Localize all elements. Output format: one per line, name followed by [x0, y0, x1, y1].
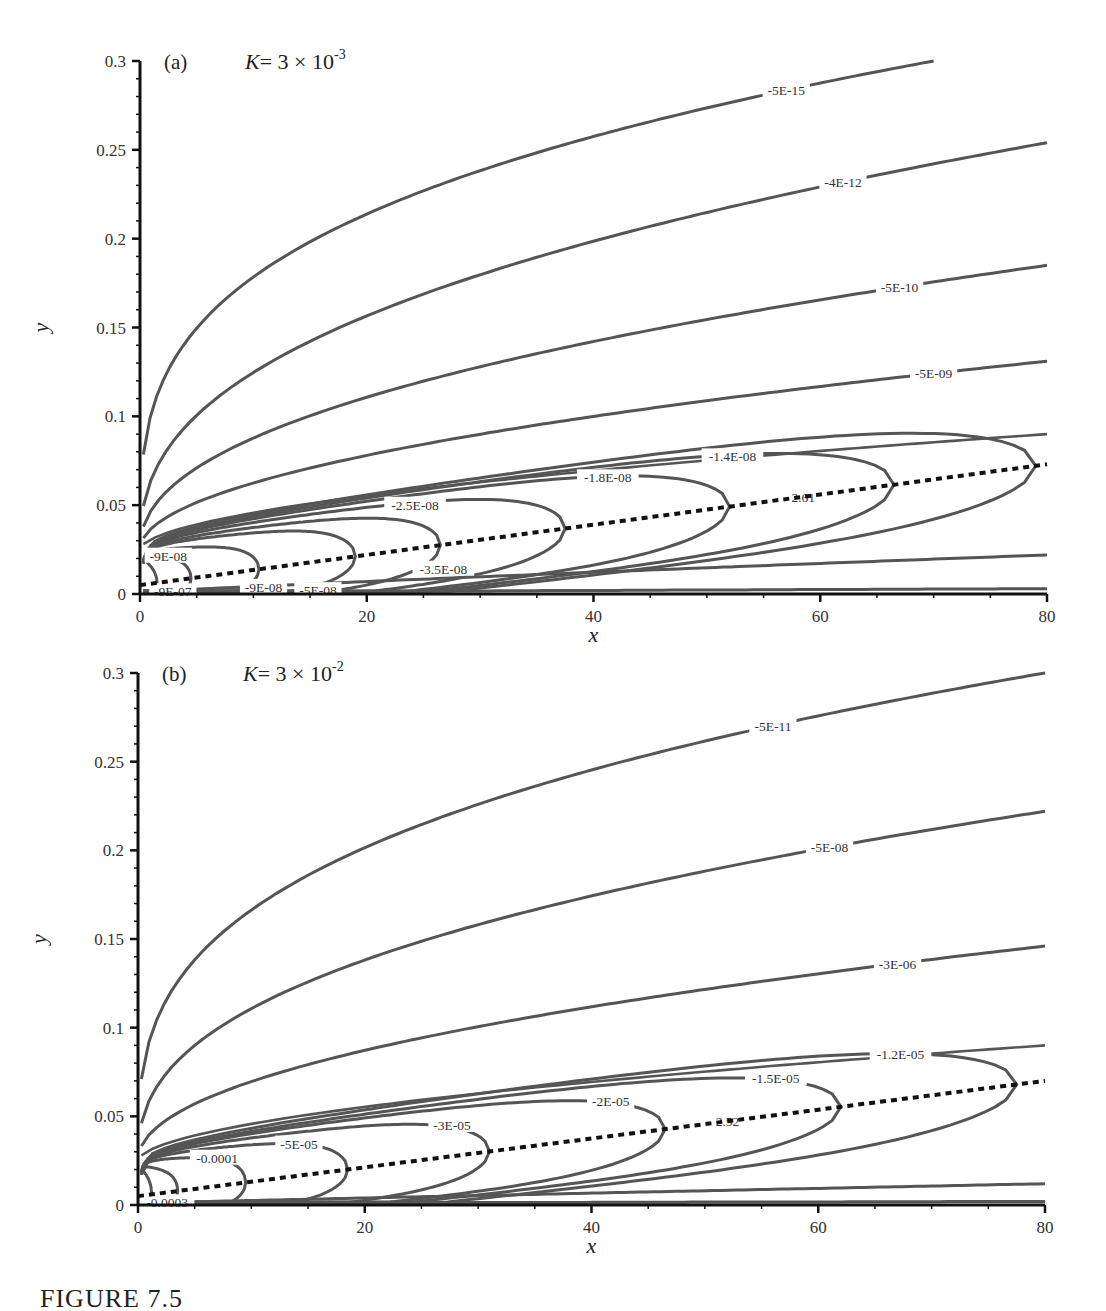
x-tick-label: 80 [1039, 607, 1056, 626]
contour-value-label: -1.5E-05 [752, 1071, 800, 1086]
contour-value-label: -3E-06 [879, 957, 917, 972]
x-axis-title: x [588, 622, 599, 647]
x-tick-label: 20 [356, 1218, 373, 1237]
y-tick-label: 0.15 [94, 930, 124, 949]
x-tick-label: 20 [358, 607, 375, 626]
y-tick-label: 0.1 [103, 1019, 124, 1038]
panel-b-contour-plot: -5E-11-5E-08-3E-06-0.0003-0.0001-5E-05-3… [26, 659, 1054, 1258]
x-tick-label: 80 [1037, 1218, 1054, 1237]
contour-value-label: -5E-08 [299, 583, 337, 598]
contour-value-label: -1.4E-08 [709, 449, 757, 464]
y-tick-label: 0.15 [96, 319, 126, 338]
contour-value-label: -9E-07 [154, 584, 192, 599]
x-tick-label: 60 [810, 1218, 827, 1237]
contour-value-label: -2.5E-08 [391, 498, 439, 513]
y-axis-title: y [28, 322, 53, 334]
contour-value-label: -1.2E-05 [877, 1047, 925, 1062]
contour-value-label: -9E-08 [150, 549, 188, 564]
contour-value-label: -3.5E-08 [420, 562, 468, 577]
parameter-annotation: K= 3 × 10-2 [242, 659, 344, 686]
axes: 02040608000.050.10.150.20.250.3 [96, 52, 1055, 626]
contour-value-label: -2E-05 [592, 1094, 630, 1109]
figure-caption: FIGURE 7.5 [40, 1284, 183, 1311]
y-tick-label: 0.2 [103, 841, 124, 860]
contour-value-label: -5E-05 [280, 1137, 318, 1152]
y-tick-label: 0.3 [105, 52, 126, 71]
contour-value-label: -3E-05 [433, 1118, 471, 1133]
y-tick-label: 0 [118, 585, 127, 604]
panel-tag: (a) [164, 50, 187, 74]
x-tick-label: 60 [812, 607, 829, 626]
x-tick-label: 0 [134, 1218, 143, 1237]
y-axis-title: y [26, 934, 51, 946]
y-tick-label: 0.05 [94, 1107, 124, 1126]
contour-value-label: -0.0001 [196, 1151, 238, 1166]
contour-lines [143, 61, 1047, 592]
panel-tag: (b) [162, 662, 187, 686]
contour-value-label: -0.0003 [146, 1195, 188, 1210]
parameter-annotation: K= 3 × 10-3 [244, 47, 346, 74]
open-contour-line [143, 143, 1047, 506]
y-tick-label: 0.1 [105, 407, 126, 426]
y-tick-label: 0 [116, 1196, 125, 1215]
y-tick-label: 0.2 [105, 230, 126, 249]
panel-a-contour-plot: -5E-15-4E-12-5E-10-5E-09-9E-07-9E-08-9E-… [28, 47, 1056, 647]
x-axis-title: x [586, 1233, 597, 1258]
y-tick-label: 0.25 [96, 141, 126, 160]
contour-value-label: -4E-12 [824, 175, 862, 190]
open-contour-line [143, 265, 1047, 526]
contour-value-label: -5E-09 [915, 366, 953, 381]
contour-value-label: -1.8E-08 [584, 470, 632, 485]
open-contour-line [141, 673, 1045, 1079]
y-tick-label: 0.05 [96, 496, 126, 515]
contour-value-label: -5E-10 [881, 280, 919, 295]
y-tick-label: 0.25 [94, 753, 124, 772]
contour-lines [141, 673, 1045, 1203]
open-contour-line [143, 434, 1047, 544]
contour-value-label: -5E-08 [811, 840, 849, 855]
contour-value-label: -5E-11 [754, 719, 791, 734]
x-tick-label: 0 [136, 607, 145, 626]
contour-value-label: -5E-15 [767, 83, 805, 98]
y-tick-label: 0.3 [103, 664, 124, 683]
